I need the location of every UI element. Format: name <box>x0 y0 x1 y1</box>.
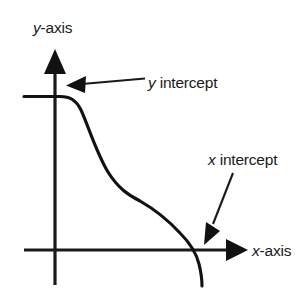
y-intercept-leader-line <box>82 79 145 85</box>
y-intercept-arrow-icon <box>66 76 86 93</box>
x-axis-label-rest: -axis <box>260 242 292 259</box>
x-intercept-leader-line <box>213 173 233 224</box>
intercepts-figure: y-axis x-axis y intercept x intercept <box>0 0 306 291</box>
x-axis-arrow-icon <box>226 239 248 261</box>
x-intercept-label: x intercept <box>207 151 278 168</box>
y-axis-label-rest: -axis <box>41 19 73 36</box>
x-intercept-label-rest: intercept <box>216 151 279 168</box>
y-axis-label: y-axis <box>32 19 73 36</box>
function-curve <box>24 97 202 287</box>
x-intercept-arrow-icon <box>204 222 220 245</box>
y-axis-arrow-icon <box>44 49 66 74</box>
y-intercept-label: y intercept <box>147 74 218 91</box>
y-intercept-label-rest: intercept <box>156 74 219 91</box>
intercepts-svg: y-axis x-axis y intercept x intercept <box>0 0 306 291</box>
x-axis-label: x-axis <box>251 242 292 259</box>
